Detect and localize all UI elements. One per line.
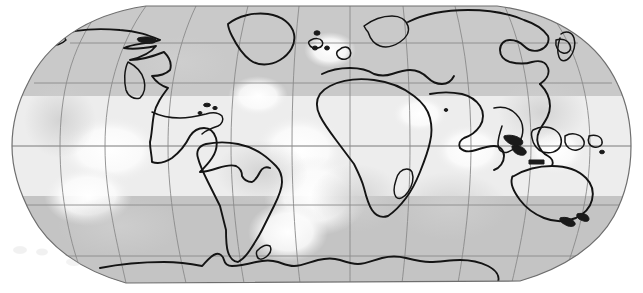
world-map-figure: [0, 0, 643, 293]
world-map-canvas: [0, 0, 643, 293]
